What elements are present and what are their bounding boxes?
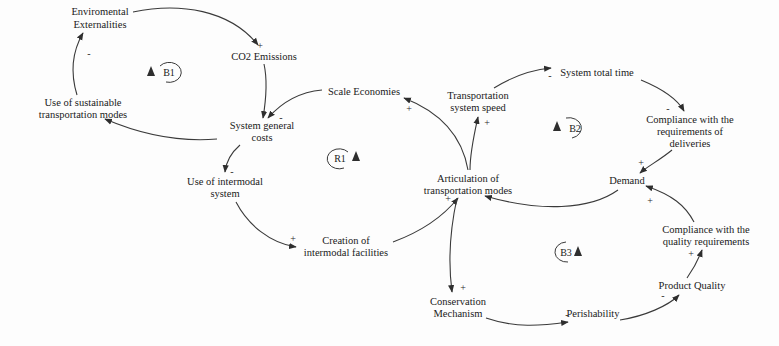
node-use-of-sustainable-transportation-modes: Use of sustainable transportation modes <box>39 97 127 120</box>
polarity-sustainable-env: - <box>87 48 90 59</box>
link-costs-to-sustainable <box>105 119 217 140</box>
node-line: requirements of <box>657 126 724 137</box>
node-line: System general <box>230 120 295 131</box>
node-line: Creation of <box>322 235 370 246</box>
polarity-demand-in-bottom: + <box>647 195 653 206</box>
node-system-total-time: System total time <box>560 67 634 78</box>
node-line: system speed <box>450 102 506 113</box>
link-co2-to-costs <box>263 64 266 118</box>
node-line: Transportation <box>447 90 509 101</box>
polarity-product-quality-in: - <box>661 290 664 301</box>
node-line: System total time <box>560 67 634 78</box>
causal-loop-diagram: + - - + + - - + + - + + + - - + B1 R1 B2… <box>0 0 779 346</box>
node-compliance-deliveries: Compliance with the requirements of deli… <box>646 114 734 149</box>
node-line: Product Quality <box>659 280 727 291</box>
node-line: transportation modes <box>424 185 512 196</box>
polarity-facilities-in: + <box>290 233 296 244</box>
polarity-demand-in-top: + <box>638 157 644 168</box>
node-line: Scale Economies <box>328 86 400 97</box>
node-line: Articulation of <box>437 173 500 184</box>
node-line: intermodal facilities <box>304 247 388 258</box>
node-line: quality requirements <box>663 236 750 247</box>
link-deliveries-to-demand <box>640 150 672 173</box>
node-compliance-quality-requirements: Compliance with the quality requirements <box>662 224 750 247</box>
loop-r1: R1 <box>327 149 360 169</box>
loop-b3: B3 <box>555 242 582 262</box>
loop-b1: B1 <box>147 62 181 82</box>
polarity-speed-in: + <box>484 117 490 128</box>
node-line: Perishability <box>566 308 620 319</box>
node-system-general-costs: System general costs <box>230 120 295 143</box>
link-scale-to-costs <box>268 90 322 118</box>
node-line: Demand <box>609 175 645 186</box>
link-perishability-to-quality <box>620 295 679 320</box>
node-line: deliveries <box>670 138 711 149</box>
node-demand: Demand <box>609 175 645 186</box>
loop-b2: B2 <box>553 118 581 138</box>
loop-arrow-icon <box>147 66 155 76</box>
node-line: Conservation <box>430 296 487 307</box>
loop-arrow-icon <box>574 246 582 256</box>
node-line: costs <box>252 132 273 143</box>
link-articulation-to-speed <box>470 117 478 170</box>
node-perishability: Perishability <box>566 308 620 319</box>
node-creation-of-intermodal-facilities: Creation of intermodal facilities <box>304 235 388 258</box>
node-articulation-of-transportation-modes: Articulation of transportation modes <box>424 173 512 196</box>
node-line: Compliance with the <box>662 224 750 235</box>
link-time-to-deliveries <box>641 80 684 111</box>
loop-arrow-icon <box>553 121 561 131</box>
node-product-quality: Product Quality <box>659 280 727 291</box>
link-facilities-to-articulation <box>393 198 458 242</box>
node-line: CO2 Emissions <box>231 51 297 62</box>
loop-label-b3: B3 <box>560 247 572 258</box>
link-conservation-to-perishability <box>486 318 568 325</box>
polarity-deliveries-in: - <box>666 103 669 114</box>
node-use-of-intermodal-system: Use of intermodal system <box>187 176 263 199</box>
node-line: Compliance with the <box>646 114 734 125</box>
node-scale-economies: Scale Economies <box>328 86 400 97</box>
node-line: Enviromental <box>71 6 128 17</box>
loop-arrow-icon <box>352 151 360 161</box>
links <box>73 8 702 325</box>
node-line: transportation modes <box>39 109 127 120</box>
node-conservation-mechanism: Conservation Mechanism <box>430 296 487 319</box>
link-speed-to-time <box>494 68 551 88</box>
loop-label-r1: R1 <box>334 153 346 164</box>
polarity-scale-in: + <box>406 103 412 114</box>
loop-label-b2: B2 <box>569 123 581 134</box>
link-intermodal-to-facilities <box>236 202 296 247</box>
loop-label-b1: B1 <box>163 67 175 78</box>
polarity-compliance-quality-in: + <box>688 248 694 259</box>
node-transportation-system-speed: Transportation system speed <box>447 90 509 113</box>
node-line: Mechanism <box>434 308 483 319</box>
link-articulation-to-conservation <box>450 198 457 292</box>
node-line: Use of sustainable <box>45 97 122 108</box>
polarity-time-in: - <box>548 70 551 81</box>
link-sustainable-to-env <box>73 33 83 95</box>
node-environmental-externalities: Enviromental Externalities <box>71 6 128 30</box>
polarity-marks: + - - + + - - + + - + + + - - + <box>87 40 694 320</box>
link-quality-to-demand <box>646 186 694 222</box>
node-line: Use of intermodal <box>187 176 263 187</box>
link-env-to-co2 <box>133 8 258 45</box>
node-line: system <box>210 188 239 199</box>
polarity-co2: + <box>257 40 263 51</box>
node-line: Externalities <box>73 19 126 30</box>
node-co2-emissions: CO2 Emissions <box>231 51 297 62</box>
polarity-conservation-in: + <box>460 282 466 293</box>
